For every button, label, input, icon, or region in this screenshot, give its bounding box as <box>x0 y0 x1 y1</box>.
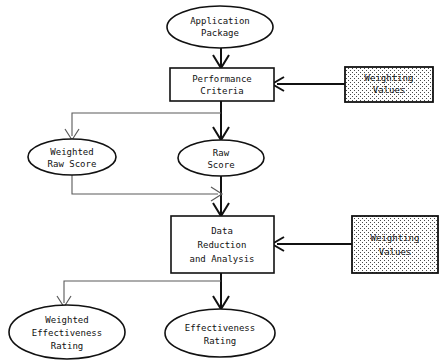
node-label-effectiveness-rating-line1: Effectiveness <box>185 323 255 333</box>
node-label-performance-criteria-line1: Performance <box>192 74 252 84</box>
node-weighting-values-bottom[interactable]: Weighting Values <box>352 216 438 273</box>
node-raw-score[interactable]: Raw Score <box>178 140 264 176</box>
node-label-data-reduction-line1: Data <box>211 226 233 236</box>
edge-data-reduction-to-weighted-effectiveness-rating <box>57 281 221 307</box>
node-label-application-package-line2: Package <box>201 28 239 38</box>
node-label-raw-score-line1: Raw <box>213 148 230 158</box>
node-label-weighting-values-top-line1: Weighting <box>365 73 414 83</box>
node-weighting-values-top[interactable]: Weighting Values <box>345 67 433 102</box>
node-label-weighted-raw-score-line1: Weighted <box>50 147 93 157</box>
node-label-weighting-values-bottom-line2: Values <box>379 247 412 257</box>
node-weighted-raw-score[interactable]: Weighted Raw Score <box>28 139 116 175</box>
node-label-data-reduction-line3: and Analysis <box>189 254 254 264</box>
flowchart-canvas: Application Package Performance Criteria… <box>0 0 444 364</box>
node-application-package[interactable]: Application Package <box>167 6 273 48</box>
edge-weighting-bottom-to-data-reduction <box>272 237 352 251</box>
node-label-data-reduction-line2: Reduction <box>198 240 247 250</box>
edge-criteria-to-raw-score <box>213 101 229 140</box>
edge-weighted-raw-score-to-data-reduction <box>72 175 222 201</box>
node-label-effectiveness-rating-line2: Rating <box>204 336 237 346</box>
edge-criteria-to-weighted-raw-score <box>65 113 221 140</box>
node-label-raw-score-line2: Score <box>207 160 234 170</box>
node-label-weighted-effectiveness-line1: Weighted <box>45 315 88 325</box>
node-data-reduction-and-analysis[interactable]: Data Reduction and Analysis <box>171 216 274 273</box>
node-weighted-effectiveness-rating[interactable]: Weighted Effectiveness Rating <box>9 305 125 359</box>
node-label-performance-criteria-line2: Criteria <box>200 86 243 96</box>
edge-app-to-criteria <box>213 48 229 68</box>
node-label-application-package-line1: Application <box>190 16 250 26</box>
edge-raw-score-to-data-reduction <box>213 176 229 216</box>
node-label-weighted-raw-score-line2: Raw Score <box>48 159 97 169</box>
flowchart-diagram: Application Package Performance Criteria… <box>0 0 444 364</box>
node-label-weighting-values-bottom-line1: Weighting <box>371 233 420 243</box>
node-effectiveness-rating[interactable]: Effectiveness Rating <box>165 309 275 357</box>
node-label-weighted-effectiveness-line2: Effectiveness <box>32 328 102 338</box>
node-label-weighted-effectiveness-line3: Rating <box>51 341 84 351</box>
edge-weighting-top-to-criteria <box>272 77 345 91</box>
node-label-weighting-values-top-line2: Values <box>373 85 406 95</box>
node-performance-criteria[interactable]: Performance Criteria <box>170 68 274 101</box>
edge-data-reduction-to-effectiveness-rating <box>213 273 229 309</box>
